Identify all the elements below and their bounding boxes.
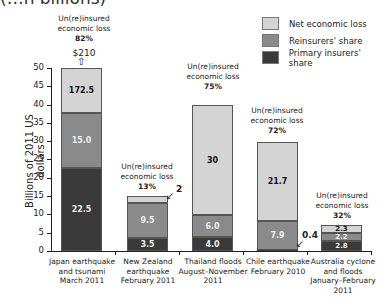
- legend: Net economic loss Reinsurers' share Prim…: [262, 15, 386, 66]
- bar-thailand: 30 6.0 4.0: [192, 105, 233, 251]
- legend-item-primary: Primary insurers' share: [262, 49, 386, 66]
- annotation-japan: Un(re)insuredeconomic loss82% $210: [40, 14, 128, 58]
- callout-arrow-icon: ↙: [296, 238, 304, 249]
- category-label-chile: Chile earthquakeFebruary 2010: [242, 257, 314, 276]
- x-axis: [51, 251, 371, 252]
- annotation-thailand: Un(re)insuredeconomic loss75%: [172, 62, 254, 92]
- bar-nz: 9.5 3.5: [127, 196, 168, 251]
- callout-nz-net: 2: [176, 184, 182, 194]
- bar-japan: 172.5 15.0 22.5: [61, 68, 102, 251]
- category-label-australia: Australia cycloneand floodsJanuary–Febru…: [306, 257, 380, 295]
- chart-title-fragment: (…n billions): [0, 0, 106, 8]
- bar-australia: 2.3 2.2 2.8: [321, 225, 362, 251]
- legend-swatch: [262, 51, 279, 64]
- legend-swatch: [262, 34, 279, 47]
- bar-chile: 21.7 7.9: [257, 142, 298, 251]
- callout-chile-primary: 0.4: [302, 230, 318, 240]
- category-label-thailand: Thailand floodsAugust–November2011: [176, 257, 250, 286]
- annotation-australia: Un(re)insuredeconomic loss32%: [301, 191, 383, 221]
- annotation-chile: Un(re)insuredeconomic loss72%: [236, 106, 318, 136]
- category-label-nz: New ZealandearthquakeFebruary 2011: [114, 257, 182, 286]
- overflow-arrow-icon: ⇧: [77, 57, 85, 67]
- legend-item-reinsurers: Reinsurers' share: [262, 32, 386, 49]
- legend-item-net: Net economic loss: [262, 15, 386, 32]
- callout-arrow-icon: ↙: [166, 190, 174, 201]
- legend-swatch: [262, 17, 279, 30]
- y-axis: [51, 68, 52, 251]
- category-label-japan: Japan earthquakeand tsunamiMarch 2011: [48, 257, 116, 286]
